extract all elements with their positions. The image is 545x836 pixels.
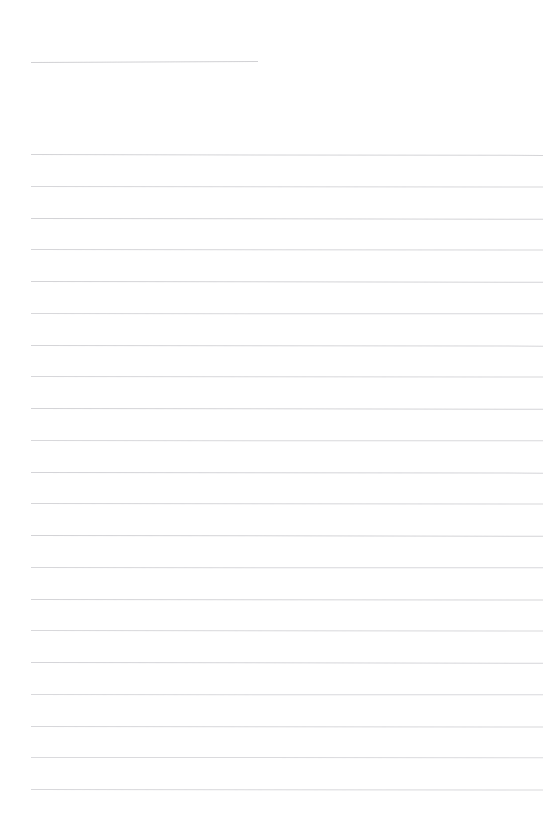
rule-line bbox=[31, 662, 543, 664]
rule-line bbox=[31, 376, 543, 377]
rule-line bbox=[31, 281, 543, 283]
rule-line bbox=[31, 535, 543, 537]
rule-line bbox=[31, 218, 543, 220]
header-rule bbox=[31, 61, 258, 63]
handwriting-content-layer bbox=[0, 0, 545, 836]
rule-line bbox=[31, 440, 543, 441]
rule-line bbox=[31, 186, 543, 188]
rule-line bbox=[31, 567, 543, 568]
rule-line bbox=[31, 503, 543, 504]
rule-line bbox=[31, 408, 543, 410]
rule-line bbox=[31, 599, 543, 601]
lined-paper-page bbox=[0, 0, 545, 836]
rule-line bbox=[31, 249, 543, 250]
rule-line bbox=[31, 345, 543, 347]
rule-line bbox=[31, 757, 543, 758]
rule-line bbox=[31, 472, 543, 474]
rule-line bbox=[31, 726, 543, 728]
rule-line bbox=[31, 694, 543, 695]
rule-line bbox=[31, 154, 543, 156]
rule-line bbox=[31, 313, 543, 314]
rule-line bbox=[31, 630, 543, 631]
rule-line bbox=[31, 789, 543, 790]
